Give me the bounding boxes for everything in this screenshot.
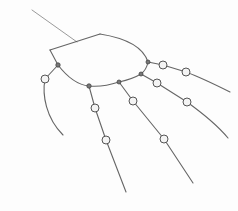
palm-right-edge	[100, 34, 148, 62]
joint-finger-2-a	[129, 97, 137, 105]
joint-finger-4-a	[159, 61, 167, 69]
hand-skeleton-sketch	[0, 0, 238, 211]
arm-line	[32, 10, 77, 42]
knuckle-thumb	[56, 63, 60, 67]
joint-finger-3-a	[153, 79, 161, 87]
palm-top-edge	[50, 34, 100, 50]
joint-finger-1-a	[91, 104, 99, 112]
knuckle-finger-4	[146, 60, 150, 64]
knuckle-finger-1	[87, 84, 91, 88]
finger-2-line	[119, 82, 193, 183]
joint-thumb-1	[41, 75, 49, 83]
palm-bottom-arc	[58, 62, 148, 86]
joint-finger-2-b	[160, 135, 168, 143]
joint-finger-1-b	[102, 136, 110, 144]
joint-finger-3-b	[183, 98, 191, 106]
knuckle-finger-2	[117, 80, 121, 84]
joint-finger-4-b	[182, 68, 190, 76]
knuckle-finger-3	[139, 72, 143, 76]
